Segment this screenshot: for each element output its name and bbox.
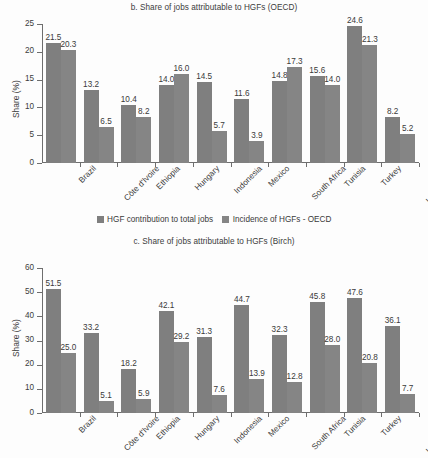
x-tick — [193, 163, 194, 167]
x-tick — [419, 413, 420, 417]
y-tick-label: 40 — [25, 311, 34, 320]
bar: 15.6 — [310, 76, 325, 163]
bar: 5.9 — [136, 399, 151, 413]
x-axis-label: Tunisia — [342, 414, 367, 439]
x-axis-label: Mexico — [267, 164, 292, 189]
chart-panel-birch: c. Share of jobs attributable to HGFs (B… — [0, 232, 428, 458]
x-tick — [231, 413, 232, 417]
legend-label: HGF contribution to total jobs — [107, 215, 213, 224]
bar-value-label: 29.2 — [173, 332, 189, 341]
bar: 25.0 — [61, 353, 76, 413]
x-axis-label: Tunisia — [342, 164, 367, 189]
bar-value-label: 21.5 — [45, 33, 61, 42]
bar-value-label: 3.9 — [251, 131, 262, 140]
y-tick-label: 60 — [25, 263, 34, 272]
bar: 12.8 — [287, 382, 302, 413]
y-axis-label-birch: Share (%) — [11, 319, 21, 357]
bar: 5.2 — [400, 134, 415, 163]
x-tick — [381, 413, 382, 417]
x-axis-label: South Africa — [310, 164, 348, 202]
bar-value-label: 13.9 — [249, 369, 265, 378]
x-axis-label: Hungary — [193, 414, 221, 442]
x-axis-label: Brazil — [77, 414, 98, 435]
bar-value-label: 36.1 — [385, 316, 401, 325]
bar: 16.0 — [174, 74, 189, 163]
chart-panel-oecd: b. Share of jobs attributable to HGFs (O… — [0, 0, 428, 232]
bar: 45.8 — [310, 302, 325, 413]
x-tick — [80, 163, 81, 167]
plot-area-birch: 0102030405060 51.525.033.25.118.25.942.1… — [42, 268, 419, 413]
x-axis-label: South Africa — [310, 414, 348, 452]
x-tick — [193, 413, 194, 417]
y-tick-label: 0 — [29, 408, 34, 417]
x-axis-label: Mexico — [267, 414, 292, 439]
chart-title-oecd: b. Share of jobs attributable to HGFs (O… — [0, 3, 428, 12]
bar: 10.4 — [121, 105, 136, 163]
bar: 33.2 — [84, 333, 99, 413]
bar-value-label: 6.5 — [100, 117, 111, 126]
y-tick-label: 20 — [25, 359, 34, 368]
bar-value-label: 17.3 — [287, 57, 303, 66]
bar-value-label: 28.0 — [324, 335, 340, 344]
bar: 21.5 — [46, 43, 61, 163]
bar-value-label: 42.1 — [158, 301, 174, 310]
x-axis-label: Indonesia — [232, 414, 263, 445]
bar: 18.2 — [121, 369, 136, 413]
bar-value-label: 5.7 — [213, 121, 224, 130]
x-tick — [268, 163, 269, 167]
bar: 51.5 — [46, 289, 61, 413]
legend-label: Incidence of HGFs - OECD — [233, 215, 332, 224]
bar-value-label: 14.5 — [196, 72, 212, 81]
bar: 44.7 — [234, 305, 249, 413]
x-tick — [381, 163, 382, 167]
bar: 14.5 — [197, 82, 212, 163]
x-axis-label: Indonesia — [232, 164, 263, 195]
y-tick-label: 15 — [25, 74, 34, 83]
bar: 11.6 — [234, 99, 249, 163]
legend-item: HGF contribution to total jobs — [97, 215, 214, 224]
bar-value-label: 32.3 — [272, 325, 288, 334]
x-tick — [80, 413, 81, 417]
bar-value-label: 7.6 — [213, 385, 224, 394]
bar-value-label: 44.7 — [234, 295, 250, 304]
bar-value-label: 11.6 — [234, 89, 249, 98]
bar: 13.9 — [249, 379, 264, 413]
bar-value-label: 12.8 — [287, 372, 303, 381]
bar-value-label: 14.0 — [158, 75, 174, 84]
x-axis-label: United States — [425, 414, 428, 455]
legend-oecd: HGF contribution to total jobsIncidence … — [0, 215, 428, 224]
bar: 32.3 — [272, 335, 287, 413]
bar-value-label: 8.2 — [138, 107, 149, 116]
bar-value-label: 18.2 — [121, 359, 137, 368]
x-tick — [117, 163, 118, 167]
y-tick-label: 50 — [25, 287, 34, 296]
y-tick: 0 — [37, 163, 42, 164]
bar: 8.2 — [385, 117, 400, 163]
bar-value-label: 24.6 — [347, 16, 363, 25]
bar: 6.5 — [99, 127, 114, 163]
x-axis-label: Brazil — [77, 164, 98, 185]
bar: 14.0 — [159, 85, 174, 163]
bar-value-label: 15.6 — [309, 66, 325, 75]
bar: 24.6 — [347, 26, 362, 163]
bar-value-label: 25.0 — [60, 343, 76, 352]
bar: 5.1 — [99, 401, 114, 413]
bar-value-label: 14.0 — [324, 75, 340, 84]
bar: 14.0 — [325, 85, 340, 163]
bar: 14.8 — [272, 81, 287, 163]
y-tick: 0 — [37, 413, 42, 414]
x-axis-label: Hungary — [193, 164, 221, 192]
y-tick-label: 20 — [25, 46, 34, 55]
bar: 29.2 — [174, 342, 189, 413]
bar-value-label: 5.9 — [138, 389, 149, 398]
x-axis-label: Turkey — [380, 164, 404, 188]
bar-value-label: 13.2 — [83, 80, 99, 89]
bar-value-label: 31.3 — [196, 327, 212, 336]
bar-value-label: 51.5 — [45, 279, 61, 288]
x-axis-label: United States — [425, 164, 428, 205]
x-axis-label: Turkey — [380, 414, 404, 438]
bar: 28.0 — [325, 345, 340, 413]
bar-value-label: 47.6 — [347, 288, 363, 297]
figure-page: b. Share of jobs attributable to HGFs (O… — [0, 0, 428, 458]
x-tick — [268, 413, 269, 417]
